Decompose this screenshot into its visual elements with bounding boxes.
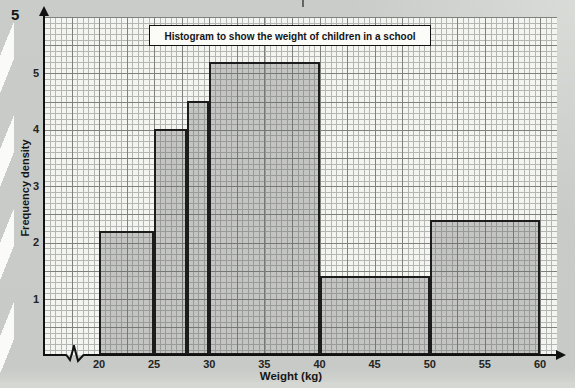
x-axis-line-left-segment	[43, 354, 67, 357]
x-tick-label: 20	[93, 358, 105, 370]
x-axis-arrow-icon	[556, 350, 566, 360]
question-number: 5	[11, 6, 19, 23]
page-bottom-edge	[0, 382, 575, 388]
y-tick-label: 5	[20, 66, 39, 80]
histogram-bar	[187, 101, 209, 355]
x-tick-label: 25	[148, 358, 160, 370]
y-axis-arrow-icon	[39, 6, 49, 16]
histogram-bar	[320, 276, 430, 355]
x-tick-label: 35	[258, 358, 270, 370]
x-tick-label: 55	[479, 358, 491, 370]
x-axis-title: Weight (kg)	[260, 370, 322, 382]
x-tick-label: 45	[369, 358, 381, 370]
histogram-bar	[99, 231, 154, 355]
chart-title: Histogram to show the weight of children…	[149, 25, 431, 46]
y-tick-label: 3	[20, 179, 39, 193]
x-axis-break-icon	[64, 345, 86, 364]
x-tick-label: 50	[424, 358, 436, 370]
histogram-bar	[430, 220, 540, 355]
scanned-textbook-page: 5 Histogram to show the weight of childr…	[0, 0, 575, 388]
torn-paper-edge	[0, 0, 14, 388]
y-axis-line	[43, 14, 46, 356]
x-tick-label: 40	[313, 358, 325, 370]
histogram-bar	[154, 129, 187, 355]
x-axis-line-right-segment	[84, 354, 558, 357]
histogram-bar	[209, 62, 319, 355]
x-tick-label: 30	[203, 358, 215, 370]
plot-area	[44, 17, 557, 355]
print-crop-mark	[302, 0, 304, 7]
y-tick-label: 1	[20, 292, 39, 306]
x-tick-label: 60	[534, 358, 546, 370]
y-tick-label: 4	[20, 122, 39, 136]
y-tick-label: 2	[20, 235, 39, 249]
